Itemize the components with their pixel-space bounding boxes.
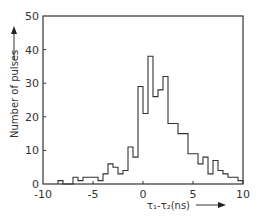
y-axis-arrowhead-icon bbox=[11, 26, 17, 34]
x-tick-label: -5 bbox=[88, 188, 99, 201]
y-tick-label: 20 bbox=[25, 111, 39, 124]
x-tick-label: 0 bbox=[140, 188, 147, 201]
histogram-chart: 01020304050 -10-50510 Number of pulses τ… bbox=[0, 0, 261, 221]
x-axis-label-group: τ₁-τ₂(ns) bbox=[147, 200, 226, 211]
y-tick-label: 30 bbox=[25, 77, 39, 90]
y-axis-label: Number of pulses bbox=[9, 50, 20, 138]
x-tick-label: 5 bbox=[190, 188, 197, 201]
x-axis-arrowhead-icon bbox=[218, 202, 226, 208]
y-axis-label-group: Number of pulses bbox=[9, 26, 20, 138]
y-tick-label: 10 bbox=[25, 144, 39, 157]
x-axis-label: τ₁-τ₂(ns) bbox=[147, 200, 190, 211]
x-tick-label: 10 bbox=[236, 188, 250, 201]
x-tick-label: -10 bbox=[34, 188, 52, 201]
histogram-outline bbox=[58, 56, 243, 184]
y-tick-label: 40 bbox=[25, 44, 39, 57]
y-tick-label: 50 bbox=[25, 10, 39, 23]
